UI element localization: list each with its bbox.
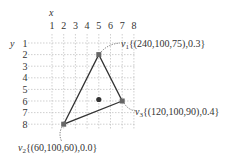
svg-text:1: 1 xyxy=(23,38,28,49)
y-ticks: 1 2 3 4 5 6 7 8 xyxy=(23,38,28,130)
svg-text:2: 2 xyxy=(23,49,28,60)
svg-text:5: 5 xyxy=(96,20,101,31)
vertex-v2 xyxy=(61,122,66,127)
svg-text:3: 3 xyxy=(23,61,28,72)
svg-text:7: 7 xyxy=(120,20,125,31)
vertex-v3 xyxy=(120,99,125,104)
svg-text:8: 8 xyxy=(131,20,136,31)
svg-text:5: 5 xyxy=(23,84,28,95)
svg-text:4: 4 xyxy=(23,72,28,83)
svg-text:1: 1 xyxy=(50,20,55,31)
x-ticks: 1 2 3 4 5 6 7 8 xyxy=(50,20,137,31)
interior-point xyxy=(96,97,101,102)
grid xyxy=(28,34,136,130)
triangle-diagram: x y 1 2 3 4 5 6 7 8 1 2 3 4 5 6 7 8 v1{(… xyxy=(0,0,234,160)
svg-text:4: 4 xyxy=(85,20,90,31)
vertex-v2-label: v2{(60,100,60),0.0} xyxy=(18,142,97,155)
vertex-v1 xyxy=(96,52,101,57)
svg-text:6: 6 xyxy=(108,20,113,31)
leader-lines xyxy=(60,43,136,142)
svg-text:2: 2 xyxy=(61,20,66,31)
svg-text:6: 6 xyxy=(23,96,28,107)
svg-text:8: 8 xyxy=(23,119,28,130)
x-axis-label: x xyxy=(48,7,54,18)
y-axis-label: y xyxy=(9,38,15,49)
vertex-v3-label: v3{(120,100,90),0.4} xyxy=(135,106,219,119)
svg-text:3: 3 xyxy=(73,20,78,31)
svg-text:7: 7 xyxy=(23,107,28,118)
